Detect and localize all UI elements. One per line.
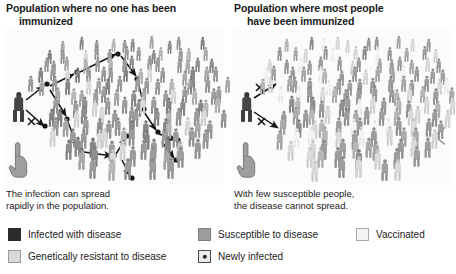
- leg-right: [152, 44, 154, 49]
- leg-right: [183, 109, 185, 116]
- leg-right: [78, 77, 80, 83]
- leg-left: [311, 173, 314, 181]
- leg-right: [390, 138, 392, 145]
- leg-left: [194, 151, 197, 159]
- crowd-person: [88, 157, 97, 179]
- panel-a-source-infected-person: [12, 92, 25, 123]
- leg-left: [176, 119, 178, 126]
- leg-right: [132, 138, 134, 145]
- legend-label-vaccinated: Vaccinated: [376, 229, 425, 240]
- panel-b-illustration: [232, 30, 452, 185]
- leg-left: [140, 152, 143, 160]
- leg-right: [93, 171, 96, 179]
- leg-left: [409, 68, 411, 73]
- crowd-person: [220, 110, 227, 128]
- leg-right: [312, 45, 314, 50]
- torso: [166, 100, 172, 108]
- torso: [178, 150, 185, 160]
- leg-left: [344, 119, 346, 126]
- leg-left: [95, 66, 97, 71]
- panel-b-caption-line1: With few susceptible people,: [234, 188, 446, 200]
- crowd-person: [423, 138, 431, 158]
- leg-right: [401, 151, 404, 159]
- crowd-person: [361, 46, 367, 60]
- crowd-person: [149, 36, 154, 49]
- leg-left: [318, 76, 320, 82]
- leg-left: [78, 161, 81, 169]
- crowd-person: [331, 86, 338, 103]
- leg-left: [101, 97, 103, 103]
- legend-swatch-susceptible: [198, 228, 211, 241]
- leg-left: [307, 69, 309, 74]
- crowd-person: [48, 127, 56, 147]
- leg-left: [60, 58, 62, 63]
- legend-swatch-newly-infected: [198, 250, 211, 263]
- crowd-person: [127, 126, 135, 146]
- torso: [338, 160, 345, 170]
- leg-left: [394, 173, 397, 181]
- leg-left: [74, 121, 76, 128]
- crowd-person: [148, 159, 157, 181]
- leg-left: [287, 86, 289, 92]
- crowd-person: [363, 70, 369, 85]
- leg-left: [215, 106, 217, 113]
- torso: [171, 90, 176, 98]
- leg-left: [28, 86, 30, 92]
- leg-right: [333, 57, 335, 62]
- crowd-person: [78, 37, 83, 50]
- leg-left: [63, 130, 65, 137]
- leg-left: [338, 169, 341, 177]
- leg-right: [157, 119, 159, 126]
- leg-left: [318, 111, 320, 118]
- herd-immunity-figure: Population where no one has been immuniz…: [0, 0, 456, 274]
- leg-right: [339, 89, 341, 95]
- crowd-person: [152, 108, 159, 126]
- torso: [276, 133, 282, 142]
- legend-item-vaccinated: Vaccinated: [356, 228, 425, 241]
- crowd-person: [130, 39, 135, 52]
- leg-right: [88, 89, 90, 95]
- leg-left: [339, 110, 341, 117]
- leg-right: [433, 78, 435, 84]
- crowd-person: [107, 159, 116, 181]
- crowd-person: [354, 157, 363, 179]
- leg-left: [276, 142, 278, 149]
- leg-right: [427, 108, 429, 115]
- crowd-person: [330, 48, 336, 62]
- leg-right: [399, 44, 401, 49]
- leg-right: [428, 150, 431, 158]
- crowd-person: [74, 68, 80, 83]
- leg-left: [131, 100, 133, 106]
- legend-label-newly-infected: Newly infected: [218, 251, 283, 262]
- leg-left: [278, 96, 280, 102]
- panel-a-caption-line1: The infection can spread: [6, 188, 218, 200]
- crowd-person: [90, 100, 97, 118]
- leg-left: [306, 160, 309, 168]
- leg-left: [153, 119, 155, 126]
- crowd-person: [260, 79, 267, 95]
- leg-left: [136, 55, 138, 60]
- crowd-person: [113, 89, 120, 106]
- crowd-person: [444, 110, 451, 128]
- crowd-person: [284, 38, 289, 51]
- crowd-person: [380, 160, 389, 182]
- leg-left: [379, 119, 381, 126]
- leg-right: [441, 132, 443, 139]
- crowd-person: [336, 56, 342, 71]
- crowd-person: [175, 108, 182, 126]
- panel-a-illustration: [4, 30, 224, 185]
- leg-right: [366, 79, 368, 85]
- legend-item-infected: Infected with disease: [8, 228, 121, 241]
- leg-right: [248, 110, 252, 122]
- leg-right: [274, 75, 276, 81]
- leg-left: [140, 107, 142, 114]
- torso: [356, 59, 361, 66]
- panel-a-title-line1: Population where no one has been: [6, 2, 176, 14]
- legend-label-susceptible: Susceptible to disease: [218, 229, 318, 240]
- panel-a-no-immunization: Population where no one has been immuniz…: [0, 0, 228, 222]
- crowd-person: [345, 40, 350, 53]
- crowd-person: [129, 56, 135, 71]
- leg-left: [177, 67, 179, 72]
- leg-left: [123, 76, 125, 82]
- leg-right: [281, 96, 283, 102]
